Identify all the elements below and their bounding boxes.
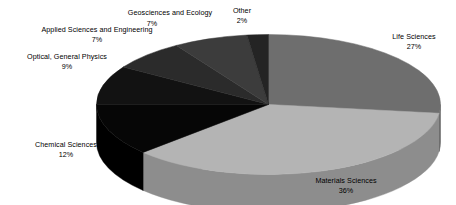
slice-label-text: Optical, General Physics xyxy=(27,52,107,61)
slice-percent-text: 27% xyxy=(380,42,448,52)
slice-label-geosciences-and-ecology: Geosciences and Ecology xyxy=(104,8,236,18)
slice-label-text: Applied Sciences and Engineering xyxy=(41,25,152,34)
slice-label-text: Chemical Sciences xyxy=(35,140,97,149)
slice-label-text: Materials Sciences xyxy=(315,176,376,185)
pie-chart: Geosciences and Ecology 7% Other 2% Appl… xyxy=(0,0,456,205)
slice-label-text: Other xyxy=(233,6,251,15)
slice-label-applied-sciences-and-engineering: Applied Sciences and Engineering 7% xyxy=(22,25,172,44)
slice-label-materials-sciences: Materials Sciences 36% xyxy=(300,176,392,195)
slice-percent-text: 7% xyxy=(22,35,172,45)
pie-top-faces xyxy=(97,35,441,175)
slice-label-text: Life Sciences xyxy=(392,32,435,41)
slice-label-text: Geosciences and Ecology xyxy=(128,8,212,17)
slice-percent-text: 12% xyxy=(16,150,116,160)
slice-label-optical-general-physics: Optical, General Physics 9% xyxy=(8,52,126,71)
slice-percent-text: 2% xyxy=(220,16,264,26)
slice-percent-text: 9% xyxy=(8,62,126,72)
slice-label-life-sciences: Life Sciences 27% xyxy=(380,32,448,51)
slice-label-other: Other 2% xyxy=(220,6,264,25)
slice-label-chemical-sciences: Chemical Sciences 12% xyxy=(16,140,116,159)
slice-percent-text: 36% xyxy=(300,186,392,196)
